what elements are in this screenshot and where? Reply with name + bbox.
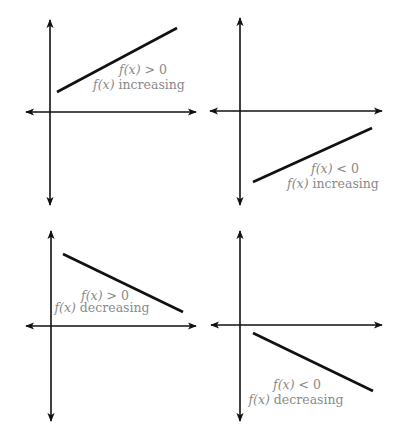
sign-label: f(x) < 0 <box>310 161 359 176</box>
sign-label: f(x) > 0 <box>118 62 167 77</box>
trend-label: f(x) decreasing <box>247 392 343 407</box>
panel-bottom-right: f(x) < 0 f(x) decreasing <box>211 231 382 421</box>
panel-bottom-left: f(x) > 0 f(x) decreasing <box>26 231 196 421</box>
trend-label: f(x) increasing <box>286 176 379 191</box>
panel-top-right: f(x) < 0 f(x) increasing <box>210 18 382 205</box>
trend-label: f(x) decreasing <box>53 300 149 315</box>
panel-top-left: f(x) > 0 f(x) increasing <box>26 20 196 205</box>
trend-label: f(x) increasing <box>92 77 185 92</box>
sign-label: f(x) < 0 <box>272 377 321 392</box>
diagram-canvas: f(x) > 0 f(x) increasing f(x) < 0 f(x) i… <box>0 0 398 445</box>
